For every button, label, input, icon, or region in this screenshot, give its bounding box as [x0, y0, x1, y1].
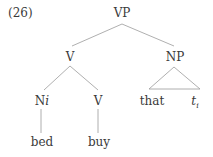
word-bed: bed	[31, 135, 53, 149]
trace-index: i	[196, 101, 199, 110]
branch-v-n	[44, 66, 70, 90]
word-that: that	[140, 94, 165, 108]
np-triangle	[149, 67, 200, 89]
trace-t-indexed: ti	[191, 94, 198, 113]
node-n-indexed: Ni	[35, 94, 49, 108]
tree-branches	[0, 0, 213, 157]
branch-vp-v	[72, 24, 122, 46]
node-n-label: N	[35, 94, 46, 108]
node-v-leaf: V	[94, 94, 103, 108]
node-n-index: i	[45, 94, 49, 108]
branch-vp-np	[122, 24, 174, 46]
word-buy: buy	[88, 135, 110, 149]
branch-v-v	[70, 66, 98, 90]
node-vp: VP	[114, 6, 131, 20]
node-np: NP	[166, 50, 185, 64]
node-v: V	[66, 50, 75, 64]
